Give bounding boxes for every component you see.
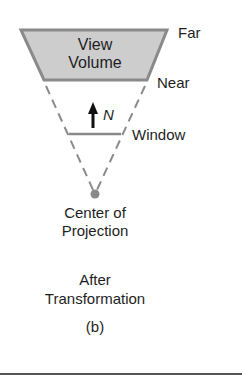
window-label: Window <box>132 126 185 143</box>
normal-label: N <box>103 106 114 123</box>
view-volume-label-line2: Volume <box>60 54 130 72</box>
cop-label-line1: Center of <box>35 204 155 222</box>
frustum-edge-left <box>46 86 94 192</box>
cop-label-line2: Projection <box>35 222 155 240</box>
view-volume-label-line1: View <box>60 36 130 54</box>
caption-line1: After <box>25 270 165 289</box>
far-label: Far <box>178 24 201 41</box>
normal-arrow-icon <box>88 102 98 114</box>
cop-label: Center of Projection <box>35 204 155 240</box>
caption: After Transformation <box>25 270 165 308</box>
subfigure-label: (b) <box>65 318 125 335</box>
center-of-projection-dot <box>91 190 100 199</box>
view-volume-label: View Volume <box>60 36 130 72</box>
near-label: Near <box>157 74 190 91</box>
caption-line2: Transformation <box>25 289 165 308</box>
